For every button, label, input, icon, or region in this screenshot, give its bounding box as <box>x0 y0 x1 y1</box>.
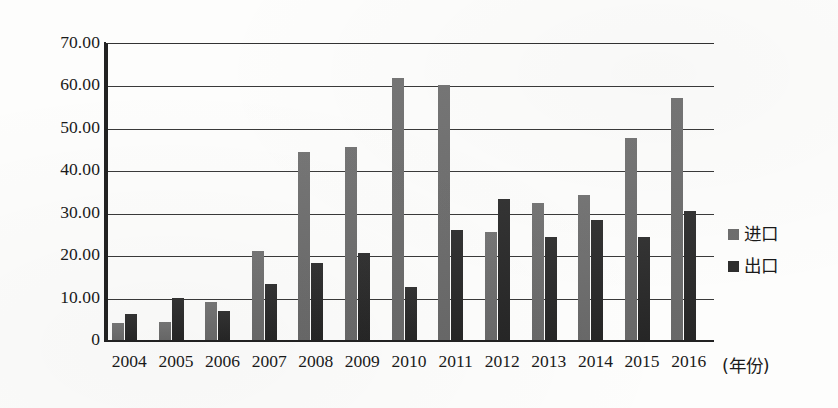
bar-export <box>265 284 277 340</box>
y-tick-label: 70.00 <box>22 34 100 52</box>
x-axis-tick-labels: 2004200520062007200820092010201120122013… <box>106 352 712 382</box>
bar-import <box>159 322 171 340</box>
bar-export <box>591 220 603 340</box>
y-tick-label: 30.00 <box>22 204 100 222</box>
bars-layer <box>106 43 712 340</box>
bar-export <box>545 237 557 340</box>
bar-import <box>345 147 357 340</box>
y-tick-label: 50.00 <box>22 119 100 137</box>
y-tick-label: 10.00 <box>22 289 100 307</box>
bar-group <box>619 43 666 340</box>
bar-export <box>498 199 510 340</box>
bar-import <box>392 78 404 340</box>
bar-export <box>218 311 230 340</box>
bar-group <box>665 43 712 340</box>
bar-export <box>638 237 650 340</box>
bar-group <box>199 43 246 340</box>
bar-group <box>526 43 573 340</box>
x-tick-label: 2016 <box>661 352 716 371</box>
bar-import <box>438 85 450 340</box>
y-tick-label: 60.00 <box>22 76 100 94</box>
bar-group <box>479 43 526 340</box>
legend-entry[interactable]: 进口 <box>728 226 828 244</box>
bar-group <box>292 43 339 340</box>
bar-export <box>684 211 696 340</box>
y-tick-label: 20.00 <box>22 246 100 264</box>
y-tick-label: 40.00 <box>22 161 100 179</box>
x-axis-baseline <box>106 340 714 342</box>
bar-export <box>172 298 184 340</box>
legend-entry[interactable]: 出口 <box>728 258 828 276</box>
bar-import <box>205 302 217 340</box>
y-tick-label: 0 <box>22 331 100 349</box>
bar-import <box>625 138 637 340</box>
legend-swatch-icon <box>728 261 739 272</box>
bar-group <box>246 43 293 340</box>
bar-group <box>572 43 619 340</box>
legend-label: 进口 <box>744 226 778 244</box>
bar-export <box>125 314 137 340</box>
bar-import <box>298 152 310 340</box>
bar-group <box>106 43 153 340</box>
chart-legend: 进口出口 <box>728 226 828 289</box>
legend-swatch-icon <box>728 229 739 240</box>
bar-export <box>451 230 463 340</box>
bar-export <box>405 287 417 340</box>
bar-chart-figure: 010.0020.0030.0040.0050.0060.0070.00 200… <box>0 0 838 408</box>
bar-group <box>432 43 479 340</box>
bar-import <box>532 203 544 340</box>
bar-export <box>311 263 323 340</box>
bar-import <box>112 323 124 340</box>
bar-group <box>339 43 386 340</box>
bar-import <box>578 195 590 340</box>
bar-group <box>153 43 200 340</box>
bar-export <box>358 253 370 340</box>
bar-import <box>252 251 264 340</box>
bar-group <box>386 43 433 340</box>
y-axis-tick-labels: 010.0020.0030.0040.0050.0060.0070.00 <box>22 28 100 348</box>
bar-import <box>671 98 683 340</box>
bar-import <box>485 232 497 340</box>
legend-label: 出口 <box>744 258 778 276</box>
x-axis-title: (年份) <box>722 352 770 377</box>
